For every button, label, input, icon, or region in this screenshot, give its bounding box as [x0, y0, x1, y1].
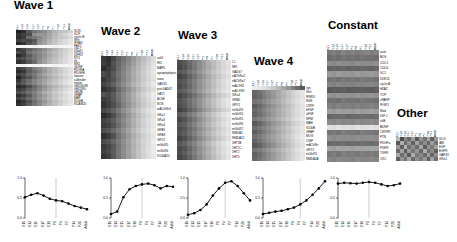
data-point — [55, 199, 58, 202]
x-tick-label: E19 — [285, 221, 289, 227]
lineplot-wave1: 0.00.51.0E11E13E15E17E19P1P4P7P14P21Adul… — [12, 174, 90, 240]
column-headers-wave1: E11E13E15E17E19P1P4P7P14P21Adult — [16, 18, 73, 30]
gene-label: S100A20 — [157, 154, 176, 159]
panel-title-wave3: Wave 3 — [178, 30, 217, 42]
panel-title-constant: Constant — [328, 20, 378, 32]
gene-label: CKC — [380, 157, 390, 162]
data-point — [159, 187, 162, 190]
x-tick-label: E13 — [191, 221, 195, 227]
heatmap-cell — [434, 157, 438, 161]
data-point — [262, 213, 265, 216]
panel-title-other: Other — [397, 108, 428, 120]
data-point — [135, 185, 138, 188]
y-tick-label: 1.0 — [17, 176, 22, 180]
data-point — [380, 183, 383, 186]
x-tick-label: P21 — [164, 221, 168, 227]
data-point — [42, 194, 45, 197]
data-point — [224, 182, 227, 185]
data-point — [128, 188, 131, 191]
panel-title-wave4: Wave 4 — [254, 56, 293, 68]
x-tick-label: P14 — [158, 221, 162, 227]
x-tick-label: P7 — [303, 221, 307, 225]
data-point — [141, 183, 144, 186]
data-point — [218, 187, 221, 190]
heatmap-wave4 — [252, 86, 305, 161]
x-tick-label: E19 — [133, 221, 137, 227]
data-point — [30, 194, 33, 197]
x-tick-label: E17 — [41, 221, 45, 227]
x-tick-label: E17 — [127, 221, 131, 227]
x-tick-label: P1 — [139, 221, 143, 225]
data-point — [86, 208, 89, 211]
x-tick-label: E19 — [360, 221, 364, 227]
x-tick-label: E11 — [260, 221, 264, 227]
column-header: Adult — [434, 130, 438, 137]
x-tick-label: E17 — [279, 221, 283, 227]
x-tick-label: E11 — [22, 221, 26, 227]
heatmap-cell — [151, 154, 156, 159]
data-point — [205, 203, 208, 206]
panel-title-wave2: Wave 2 — [101, 26, 140, 38]
heatmap-cell — [226, 155, 231, 160]
data-point — [337, 182, 340, 185]
data-point — [153, 184, 156, 187]
lineplot-wave2: 0.00.51.0E11E13E15E17E19P1P4P7P14P21Adul… — [98, 174, 176, 240]
y-tick-label: 1.0 — [255, 176, 260, 180]
x-tick-label: E13 — [28, 221, 32, 227]
x-tick-label: Adult — [397, 221, 401, 229]
data-point — [61, 200, 64, 203]
data-point — [374, 182, 377, 185]
x-tick-label: P14 — [310, 221, 314, 227]
heatmap-row — [252, 157, 305, 161]
row-labels-wave4: synShhIFNR3NGFCNTFbFGFaFGFNPMMAHS100BGFA… — [306, 86, 319, 161]
x-tick-label: P14 — [385, 221, 389, 227]
column-header: Adult — [374, 43, 379, 50]
x-tick-label: P7 — [151, 221, 155, 225]
y-tick-label: 0.5 — [17, 196, 22, 200]
x-tick-label: P4 — [297, 221, 301, 225]
x-tick-label: E11 — [335, 221, 339, 227]
x-tick-label: E19 — [210, 221, 214, 227]
column-headers-constant: E11E13E15E17E19P1P4P7P14P21Adult — [327, 38, 379, 50]
data-point — [36, 192, 39, 195]
data-point — [268, 212, 271, 215]
x-tick-label: P4 — [145, 221, 149, 225]
data-point — [386, 185, 389, 188]
x-tick-label: E11 — [185, 221, 189, 227]
data-point — [393, 184, 396, 187]
y-tick-label: 0.0 — [103, 216, 108, 220]
x-tick-label: E13 — [114, 221, 118, 227]
row-labels-wave2: ash1HICMAP5synaptophysinnanoGAD65pro-GAD… — [157, 56, 176, 159]
data-point — [230, 180, 233, 183]
lineplot-wave4: 0.00.51.0E11E13E15E17E19P1P4P7P14P21Adul… — [250, 174, 328, 240]
row-labels-other: SCGIAREGFEGFRGAP43GRa1 — [439, 137, 449, 161]
data-point — [349, 182, 352, 185]
data-point — [299, 203, 302, 206]
heatmap-row — [396, 157, 438, 161]
data-point — [311, 194, 314, 197]
data-point — [305, 199, 308, 202]
y-tick-label: 0.5 — [180, 196, 185, 200]
x-tick-label: E17 — [204, 221, 208, 227]
x-tick-label: P21 — [78, 221, 82, 227]
gene-label: GRa1 — [439, 157, 449, 161]
lineplot-constant: 0.00.51.0E11E13E15E17E19P1P4P7P14P21Adul… — [325, 174, 403, 240]
series-line — [188, 181, 250, 215]
x-tick-label: P21 — [316, 221, 320, 227]
x-tick-label: P1 — [366, 221, 370, 225]
gene-label: NCAM20 — [74, 103, 88, 106]
row-labels-wave3: L1NFLGAD67nAChRa2nAChRa7mAChR2mAChR3GRa4… — [232, 60, 245, 160]
column-headers-wave3: E11E13E15E17E19P1P4P7P14P21Adult — [177, 48, 231, 60]
data-point — [274, 210, 277, 213]
x-tick-label: P21 — [391, 221, 395, 227]
data-point — [199, 209, 202, 212]
column-header: Adult — [226, 53, 231, 60]
y-tick-label: 0.0 — [330, 216, 335, 220]
x-tick-label: Adult — [170, 221, 174, 229]
y-tick-label: 1.0 — [103, 176, 108, 180]
x-tick-label: P4 — [372, 221, 376, 225]
x-tick-label: P7 — [65, 221, 69, 225]
gene-label: 5HT3 — [232, 155, 245, 160]
heatmap-other — [396, 137, 438, 161]
data-point — [172, 186, 175, 189]
